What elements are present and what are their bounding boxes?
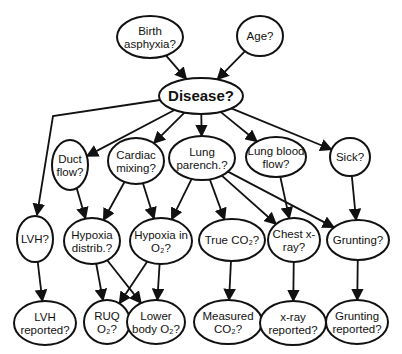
node-label: Birth [138,25,162,37]
node-label: Lung [189,146,215,158]
edge-age-to-disease [217,51,245,79]
edge-birth-asphyxia-to-disease [166,55,187,79]
node-age: Age? [237,16,283,56]
node-label: Hypoxia [71,229,113,241]
node-label: reported? [268,324,317,336]
node-label: O₂? [97,323,117,335]
node-label: CO₂? [214,323,242,335]
node-ruq-o2: RUQO₂? [84,300,130,344]
bayesian-network-diagram: Birthasphyxia?Age?Disease?Ductflow?Cardi… [0,0,402,354]
node-birth-asphyxia: Birthasphyxia? [117,16,183,58]
edge-lung-parench-to-true-co2 [210,179,225,219]
edge-lung-parench-to-hypoxia-in-o2 [172,179,192,220]
node-label: parench.? [176,159,227,171]
edge-cardiac-mixing-to-hypoxia-in-o2 [143,183,154,218]
node-true-co2: True CO₂? [199,219,265,261]
node-grunting-reported: Gruntingreported? [326,300,388,344]
node-label: Lower [140,310,171,322]
node-label: Grunting? [333,234,384,246]
node-label: Chest x- [273,228,316,240]
node-lower-body-o2: Lowerbody O₂? [127,300,185,344]
node-lvh: LVH? [17,216,53,262]
node-label: True CO₂? [205,234,260,246]
node-label: RUQ [94,310,120,322]
node-label: Age? [247,30,274,42]
node-disease: Disease? [159,78,243,114]
node-label: x-ray [280,311,306,323]
node-label: mixing? [116,162,156,174]
edge-sick-to-grunting [352,176,356,220]
edge-hypoxia-distrib-to-ruq-o2 [96,264,103,301]
node-label: distrib.? [72,242,112,254]
node-label: reported? [20,324,69,336]
node-xray-reported: x-rayreported? [260,301,326,345]
node-label: Sick? [336,151,364,163]
nodes-layer: Birthasphyxia?Age?Disease?Ductflow?Cardi… [14,16,389,345]
edge-duct-flow-to-hypoxia-distrib [77,188,86,218]
node-label: flow? [57,166,84,178]
node-label: LVH? [21,233,49,245]
edge-lvh-to-lvh-reported [38,262,43,301]
node-label: Measured [202,310,253,322]
node-label: ray? [283,241,305,253]
edge-lung-blood-flow-to-chest-xray [280,177,289,219]
node-grunting: Grunting? [327,220,389,260]
edge-true-co2-to-measured-co2 [229,261,231,300]
node-measured-co2: MeasuredCO₂? [194,300,262,344]
node-sick: Sick? [330,138,370,176]
node-label: Lung blood [248,145,305,157]
node-label: Cardiac [116,149,156,161]
edge-cardiac-mixing-to-hypoxia-distrib [104,182,125,220]
node-duct-flow: Ductflow? [52,140,88,190]
node-label: body O₂? [132,323,180,335]
node-label: reported? [332,323,381,335]
node-label: asphyxia? [124,38,176,50]
edge-hypoxia-in-o2-to-lower-body-o2 [157,264,159,300]
edge-disease-to-cardiac-mixing [154,113,185,144]
node-lvh-reported: LVHreported? [14,301,76,345]
node-lung-parench: Lungparench.? [169,136,235,180]
node-label: LVH [34,311,56,323]
node-label: flow? [263,158,290,170]
node-label: Duct [58,153,82,165]
node-label: Disease? [168,87,234,104]
node-hypoxia-distrib: Hypoxiadistrib.? [64,218,120,264]
node-chest-xray: Chest x-ray? [268,218,320,262]
node-label: Grunting [335,310,379,322]
node-label: Hypoxia in [134,229,188,241]
node-label: O₂? [151,242,171,254]
node-cardiac-mixing: Cardiacmixing? [108,138,164,184]
node-hypoxia-in-o2: Hypoxia inO₂? [130,218,192,264]
node-lung-blood-flow: Lung bloodflow? [246,137,306,177]
edge-hypoxia-in-o2-to-ruq-o2 [119,262,147,304]
